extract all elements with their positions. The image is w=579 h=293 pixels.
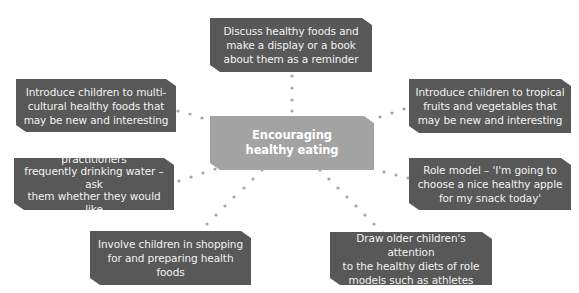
node-text-line: for my snack today' xyxy=(418,191,563,205)
node-tropical-fruits: Introduce children to tropical fruits an… xyxy=(409,79,571,133)
node-text-line: may be new and interesting xyxy=(416,113,565,127)
central-topic: Encouraging healthy eating xyxy=(210,116,374,170)
node-text-line: may be new and interesting xyxy=(24,113,169,127)
node-text-line: about them as a reminder xyxy=(223,52,358,66)
node-text-line: Introduce children to tropical xyxy=(416,85,565,99)
node-text-line: cultural healthy foods that xyxy=(24,99,169,113)
node-athletes-diets: Draw older children's attention to the h… xyxy=(330,232,492,285)
node-text-line: Draw older children's attention xyxy=(336,231,486,259)
node-text-line: make a display or a book xyxy=(223,38,358,52)
node-text-line: Discuss healthy foods and xyxy=(223,24,358,38)
node-text-line: Role model – 'I'm going to xyxy=(418,163,563,177)
node-multicultural-foods: Introduce children to multi- cultural he… xyxy=(16,79,176,132)
node-drinking-water: Let children see practitioners frequentl… xyxy=(14,158,174,210)
node-text-line: Involve children in shopping xyxy=(96,237,245,251)
node-text-line: fruits and vegetables that xyxy=(416,99,565,113)
node-role-model: Role model – 'I'm going to choose a nice… xyxy=(409,158,571,210)
node-text-line: frequently drinking water – ask xyxy=(20,165,168,190)
central-topic-line: Encouraging xyxy=(246,128,339,143)
node-text-line: Introduce children to multi- xyxy=(24,85,169,99)
node-discuss-healthy-foods: Discuss healthy foods and make a display… xyxy=(210,18,372,72)
node-shopping-preparing: Involve children in shopping for and pre… xyxy=(90,231,251,285)
node-text-line: for and preparing health foods xyxy=(96,251,245,279)
node-text-line: models such as athletes xyxy=(336,273,486,287)
central-topic-line: healthy eating xyxy=(246,143,339,158)
mind-map-diagram: Discuss healthy foods and make a display… xyxy=(0,0,579,293)
node-text-line: to the healthy diets of role xyxy=(336,259,486,273)
node-text-line: choose a nice healthy apple xyxy=(418,177,563,191)
